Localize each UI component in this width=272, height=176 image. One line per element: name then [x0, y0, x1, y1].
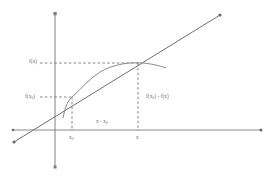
vertical-axis-top-cap: [53, 12, 56, 15]
label-x0-tick: x0: [69, 135, 74, 141]
label-f-of-x0-subscript: 0: [31, 96, 33, 100]
label-delta-y: f(x0) - f(x): [146, 94, 169, 100]
horizontal-axis-start-dot: [12, 129, 15, 132]
label-x-tick: x: [136, 135, 139, 140]
label-x0-subscript: 0: [72, 137, 74, 141]
figure-container: f(x) f(x0) x0 x x - x0 f(x0) - f(x): [0, 0, 272, 176]
vertical-axis-bottom-cap: [54, 166, 57, 169]
label-delta-x: x - x0: [96, 119, 108, 125]
figure-canvas: [0, 0, 272, 176]
horizontal-axis-end-dot: [260, 129, 263, 132]
label-delta-x-main: x - x: [96, 118, 106, 124]
label-f-of-x0: f(x0): [25, 94, 35, 100]
secant-line-lower-endpoint: [12, 140, 15, 143]
label-f-of-x: f(x): [29, 59, 37, 64]
label-delta-y-second: ) - f(x): [154, 93, 169, 99]
secant-line-upper-endpoint: [218, 13, 221, 16]
label-delta-y-subscript: 0: [152, 96, 154, 100]
label-f-of-x0-tail: ): [33, 93, 35, 99]
concave-curve: [63, 63, 166, 118]
secant-line: [14, 15, 220, 142]
label-delta-x-subscript: 0: [106, 121, 108, 125]
